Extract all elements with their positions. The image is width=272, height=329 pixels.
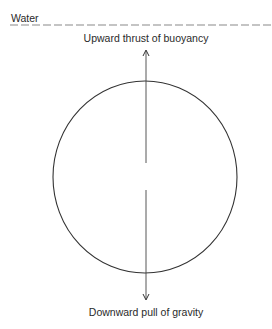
water-label: Water [11,12,39,24]
diagram-canvas [0,0,272,329]
upward-thrust-label: Upward thrust of buoyancy [0,32,272,44]
downward-pull-label: Downward pull of gravity [0,306,272,318]
submerged-body-circle [53,81,237,273]
buoyancy-diagram: Water Upward thrust of buoyancy Downward… [0,0,272,329]
